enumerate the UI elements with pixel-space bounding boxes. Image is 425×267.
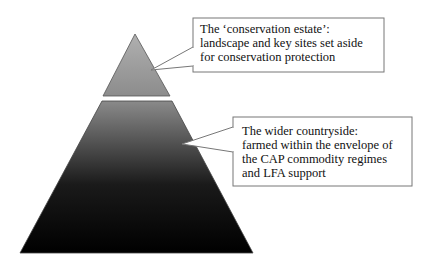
callout-pointer-conservation-estate [151, 47, 193, 70]
callout-line: farmed within the envelope of [242, 138, 393, 152]
callout-text-wider-countryside: The wider countryside: farmed within the… [242, 124, 393, 180]
callout-line: for conservation protection [200, 50, 363, 64]
pyramid-bottom-tier [20, 101, 253, 253]
callout-line: the CAP commodity regimes [242, 152, 393, 166]
callout-line: and LFA support [242, 166, 393, 180]
callout-line: The ‘conservation estate’: [200, 22, 363, 36]
callout-line: The wider countryside: [242, 124, 393, 138]
callout-text-conservation-estate: The ‘conservation estate’: landscape and… [200, 22, 363, 64]
callout-line: landscape and key sites set aside [200, 36, 363, 50]
